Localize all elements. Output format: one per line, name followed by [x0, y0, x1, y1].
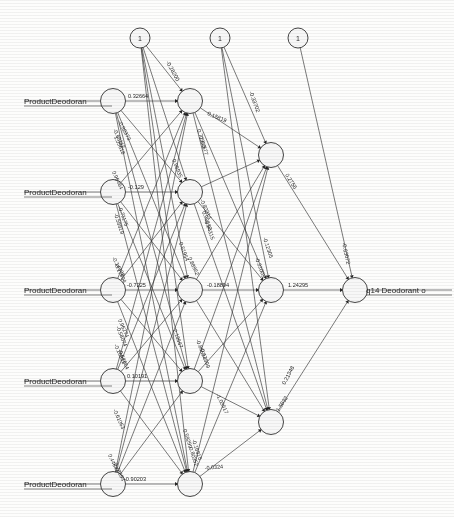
- svg-text:0.10191: 0.10191: [127, 373, 147, 379]
- network-svg: 111 ProductDeodoranProductDeodoranProduc…: [0, 0, 454, 517]
- edge-group: [115, 46, 353, 486]
- svg-text:1: 1: [138, 35, 142, 42]
- svg-text:-0.0324: -0.0324: [204, 463, 223, 471]
- svg-text:-0.129: -0.129: [128, 184, 144, 190]
- svg-text:0.21348: 0.21348: [281, 365, 296, 386]
- svg-text:-0.17899: -0.17899: [199, 346, 211, 368]
- svg-text:0.32664: 0.32664: [128, 93, 148, 99]
- svg-text:-0.94315: -0.94315: [203, 218, 216, 240]
- svg-text:0.15819: 0.15819: [207, 110, 228, 123]
- svg-text:-0.63072: -0.63072: [341, 242, 351, 265]
- svg-text:-1.03517: -1.03517: [215, 393, 230, 415]
- svg-text:-0.33702: -0.33702: [248, 90, 261, 113]
- svg-text:-0.18894: -0.18894: [207, 282, 229, 288]
- svg-text:1: 1: [218, 35, 222, 42]
- network-diagram-canvas: 111 ProductDeodoranProductDeodoranProduc…: [0, 0, 454, 517]
- svg-text:-0.90203: -0.90203: [124, 476, 146, 482]
- svg-text:-0.28200: -0.28200: [165, 60, 181, 82]
- svg-text:0.59299: 0.59299: [182, 428, 194, 448]
- svg-text:-0.7225: -0.7225: [127, 282, 146, 288]
- svg-text:1: 1: [296, 35, 300, 42]
- label-group: ProductDeodoranProductDeodoranProductDeo…: [24, 60, 452, 489]
- svg-text:-0.61063: -0.61063: [112, 408, 126, 430]
- svg-text:1.24295: 1.24295: [288, 282, 308, 288]
- svg-text:0.44677: 0.44677: [198, 135, 210, 155]
- svg-text:1.5032: 1.5032: [275, 395, 289, 413]
- svg-text:0.88952: 0.88952: [187, 256, 200, 276]
